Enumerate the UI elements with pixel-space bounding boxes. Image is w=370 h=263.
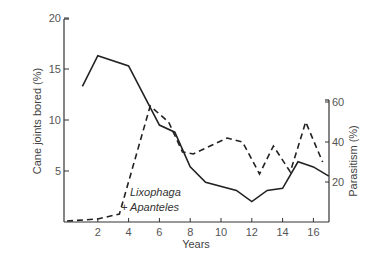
x-tick-label: 14 — [276, 226, 288, 238]
cane-joints-bored-line — [82, 56, 328, 202]
y2-axis-title: Parasitism (%) — [347, 125, 359, 197]
y-tick-label: 15 — [49, 63, 61, 75]
y2-tick-label: 40 — [332, 136, 344, 148]
y-axis-title: Cane joints bored (%) — [31, 68, 43, 174]
x-axis-title: Years — [182, 238, 210, 250]
x-tick-label: 8 — [187, 226, 193, 238]
x-tick-label: 4 — [126, 226, 132, 238]
y-tick-label: 20 — [49, 12, 61, 24]
x-tick-label: 12 — [246, 226, 258, 238]
y-ticks: 5101520 — [49, 12, 69, 177]
y-tick-label: 10 — [49, 114, 61, 126]
y2-tick-label: 60 — [332, 96, 344, 108]
annotation-lixophaga: Lixophaga — [130, 186, 181, 198]
x-tick-label: 16 — [307, 226, 319, 238]
x-tick-label: 10 — [215, 226, 227, 238]
y-tick-label: 5 — [55, 165, 61, 177]
chart: 246810121416 5101520 204060 Years Cane j… — [0, 0, 370, 263]
x-ticks: 246810121416 — [95, 218, 320, 238]
y2-ticks: 204060 — [325, 96, 344, 188]
x-tick-label: 6 — [156, 226, 162, 238]
annotation-apanteles: + Apanteles — [121, 201, 179, 213]
x-tick-label: 2 — [95, 226, 101, 238]
y2-tick-label: 20 — [332, 176, 344, 188]
parasitism-line — [67, 106, 323, 221]
